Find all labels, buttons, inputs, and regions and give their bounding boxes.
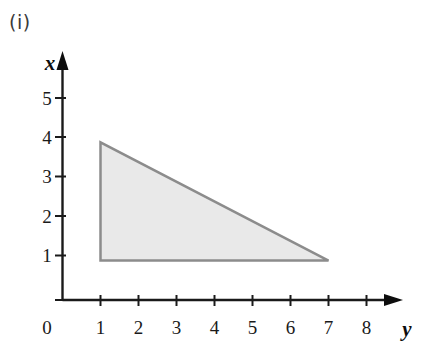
vertical-axis-arrowhead [57,51,69,70]
horizontal-tick-label-8: 8 [362,317,372,338]
vertical-axis-ticks [55,98,66,300]
origin-label: 0 [42,317,52,338]
horizontal-tick-label-2: 2 [134,317,144,338]
horizontal-tick-label-7: 7 [324,317,334,338]
vertical-tick-label-4: 4 [42,127,52,148]
horizontal-axis-label: y [399,317,412,341]
horizontal-tick-label-4: 4 [210,317,220,338]
vertical-tick-label-3: 3 [42,166,52,187]
horizontal-tick-label-5: 5 [248,317,258,338]
vertical-tick-label-2: 2 [42,206,52,227]
figure-container: (i) 1 [0,0,422,362]
vertical-tick-label-5: 5 [42,88,52,109]
vertical-axis-label: x [44,51,56,75]
horizontal-tick-label-1: 1 [96,317,106,338]
horizontal-tick-labels: 1 2 3 4 5 6 7 8 [96,317,372,338]
coordinate-plane-figure: 1 2 3 4 5 0 1 2 3 4 5 6 7 8 x y [0,0,422,362]
shaded-triangle-region [101,142,329,260]
horizontal-axis-arrowhead [384,294,403,306]
horizontal-tick-label-6: 6 [286,317,296,338]
vertical-tick-labels: 1 2 3 4 5 [42,88,52,266]
vertical-tick-label-1: 1 [42,245,52,266]
horizontal-tick-label-3: 3 [172,317,182,338]
